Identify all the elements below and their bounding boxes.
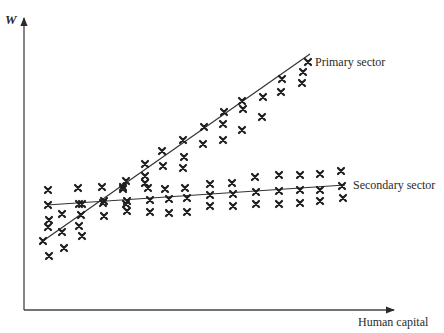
data-point-cross bbox=[61, 245, 67, 251]
scatter-chart bbox=[0, 0, 444, 333]
data-point-cross bbox=[162, 186, 168, 192]
data-point-cross bbox=[142, 161, 148, 167]
y-axis-label: W bbox=[5, 12, 17, 28]
data-point-cross bbox=[184, 209, 190, 215]
data-point-cross bbox=[239, 127, 245, 133]
data-point-cross bbox=[317, 171, 323, 177]
data-point-cross bbox=[229, 180, 235, 186]
data-point-cross bbox=[338, 168, 344, 174]
data-point-cross bbox=[207, 181, 213, 187]
data-point-cross bbox=[297, 200, 303, 206]
trend-lines bbox=[40, 54, 345, 243]
data-point-cross bbox=[299, 80, 305, 86]
data-point-cross bbox=[252, 174, 258, 180]
data-point-cross bbox=[101, 213, 107, 219]
data-point-cross bbox=[182, 185, 188, 191]
data-point-cross bbox=[46, 253, 52, 259]
data-point-cross bbox=[240, 106, 246, 112]
data-point-cross bbox=[253, 201, 259, 207]
data-point-cross bbox=[317, 187, 323, 193]
data-point-cross bbox=[340, 195, 346, 201]
data-points bbox=[40, 59, 346, 259]
data-point-cross bbox=[99, 184, 105, 190]
data-point-cross bbox=[46, 217, 52, 223]
data-point-cross bbox=[305, 59, 311, 65]
data-point-cross bbox=[79, 233, 85, 239]
data-point-cross bbox=[159, 148, 165, 154]
data-point-cross bbox=[239, 98, 245, 104]
data-point-cross bbox=[259, 114, 265, 120]
data-point-cross bbox=[59, 229, 65, 235]
data-point-cross bbox=[45, 187, 51, 193]
data-point-cross bbox=[45, 224, 51, 230]
data-point-cross bbox=[180, 165, 186, 171]
data-point-cross bbox=[142, 173, 148, 179]
data-point-cross bbox=[78, 212, 84, 218]
data-point-cross bbox=[279, 76, 285, 82]
data-point-cross bbox=[230, 203, 236, 209]
data-point-cross bbox=[180, 137, 186, 143]
data-point-cross bbox=[297, 172, 303, 178]
data-point-cross bbox=[200, 141, 206, 147]
x-axis-label: Human capital bbox=[358, 315, 428, 330]
data-point-cross bbox=[40, 238, 46, 244]
data-point-cross bbox=[220, 137, 226, 143]
data-point-cross bbox=[300, 69, 306, 75]
data-point-cross bbox=[124, 208, 130, 214]
data-point-cross bbox=[276, 201, 282, 207]
data-point-cross bbox=[276, 172, 282, 178]
data-point-cross bbox=[207, 192, 213, 198]
data-point-cross bbox=[160, 163, 166, 169]
data-point-cross bbox=[181, 154, 187, 160]
data-point-cross bbox=[147, 209, 153, 215]
data-point-cross bbox=[317, 198, 323, 204]
data-point-cross bbox=[260, 94, 266, 100]
data-point-cross bbox=[207, 203, 213, 209]
data-point-cross bbox=[339, 183, 345, 189]
data-point-cross bbox=[278, 89, 284, 95]
secondary-sector-label: Secondary sector bbox=[353, 178, 435, 193]
data-point-cross bbox=[253, 189, 259, 195]
primary-sector-label: Primary sector bbox=[315, 55, 385, 70]
data-point-cross bbox=[75, 185, 81, 191]
data-point-cross bbox=[76, 223, 82, 229]
data-point-cross bbox=[230, 191, 236, 197]
data-point-cross bbox=[59, 211, 65, 217]
data-point-cross bbox=[166, 210, 172, 216]
data-point-cross bbox=[220, 121, 226, 127]
